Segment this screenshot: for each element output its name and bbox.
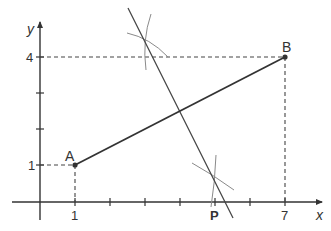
- coordinate-diagram: A B y x 4 1 1 P 7: [0, 0, 331, 231]
- x-tick-label-p: P: [210, 208, 219, 223]
- point-b: [282, 54, 287, 59]
- point-b-label: B: [282, 39, 291, 55]
- y-tick-label-4: 4: [26, 50, 33, 65]
- axes: [12, 22, 322, 220]
- x-tick-label-7: 7: [281, 208, 288, 223]
- perpendicular-bisector: [128, 8, 233, 218]
- point-a-label: A: [65, 148, 75, 164]
- arc-upper-2: [127, 33, 168, 57]
- segment-ab: [75, 57, 285, 165]
- arc-lower-1: [192, 163, 234, 190]
- dashed-guides: [40, 57, 285, 202]
- x-axis-label: x: [315, 207, 324, 223]
- x-tick-label-1: 1: [71, 208, 78, 223]
- y-tick-label-1: 1: [28, 158, 35, 173]
- y-axis-label: y: [26, 21, 35, 37]
